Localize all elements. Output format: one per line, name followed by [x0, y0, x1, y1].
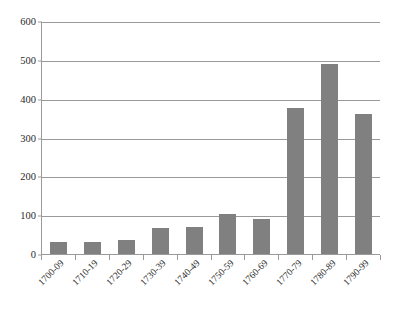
x-axis-tick-label: 1740-49	[173, 258, 202, 287]
x-axis-tick-label: 1790-99	[342, 258, 371, 287]
bar-slot	[177, 22, 211, 254]
y-axis-tick-label: 200	[20, 172, 42, 183]
bar-slot	[245, 22, 279, 254]
bar	[355, 114, 372, 254]
bar	[84, 242, 101, 254]
bar-slot	[110, 22, 144, 254]
bar	[118, 240, 135, 254]
y-axis-tick-label: 600	[20, 17, 42, 28]
bar	[253, 219, 270, 254]
x-axis-tick-label: 1760-69	[241, 258, 270, 287]
bar-slot	[76, 22, 110, 254]
bar-slot	[279, 22, 313, 254]
y-axis-tick-label: 500	[20, 56, 42, 67]
bar	[50, 242, 67, 254]
x-axis-tick-label: 1710-19	[71, 258, 100, 287]
x-axis-tick-label: 1730-39	[139, 258, 168, 287]
x-axis-tick-label: 1720-29	[105, 258, 134, 287]
x-axis-labels: 1700-091710-191720-291730-391740-491750-…	[41, 260, 380, 311]
bar-slot	[211, 22, 245, 254]
plot-area: 0100200300400500600	[41, 22, 380, 255]
bar-chart: 0100200300400500600 1700-091710-191720-2…	[0, 0, 396, 311]
x-axis-tick-label: 1700-09	[37, 258, 66, 287]
bar-slot	[143, 22, 177, 254]
x-axis-tick-label: 1780-89	[309, 258, 338, 287]
bar	[186, 227, 203, 254]
bar	[152, 228, 169, 254]
x-axis-tick-mark	[380, 255, 381, 260]
y-axis-tick-label: 400	[20, 94, 42, 105]
bars-group	[42, 22, 380, 254]
y-axis-tick-label: 300	[20, 133, 42, 144]
bar	[219, 214, 236, 254]
bar	[321, 64, 338, 254]
bar-slot	[346, 22, 380, 254]
bar-slot	[312, 22, 346, 254]
x-axis-tick-label: 1770-79	[275, 258, 304, 287]
bar	[287, 108, 304, 254]
x-axis-tick-label: 1750-59	[207, 258, 236, 287]
y-axis-tick-label: 100	[20, 211, 42, 222]
bar-slot	[42, 22, 76, 254]
